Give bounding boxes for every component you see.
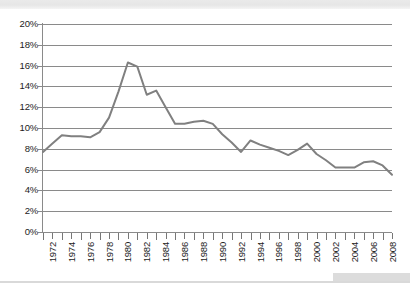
series-line (43, 62, 392, 174)
scan-bottom-rule (0, 281, 410, 283)
page-canvas: 0%2%4%6%8%10%12%14%16%18%20% 19721974197… (0, 0, 410, 285)
series-line-svg (0, 0, 410, 285)
scan-corner-box (333, 273, 410, 281)
line-chart: 0%2%4%6%8%10%12%14%16%18%20% 19721974197… (0, 0, 410, 285)
